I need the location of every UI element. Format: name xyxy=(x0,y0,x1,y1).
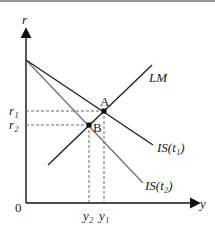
point-a-label: A xyxy=(100,94,110,109)
lm-curve xyxy=(48,65,152,165)
y2-tick-label: y₂ xyxy=(81,208,94,223)
y-axis-label: r xyxy=(22,12,28,27)
point-b xyxy=(87,123,92,128)
is-t1-label: IS(t₁) xyxy=(156,140,185,155)
lm-label: LM xyxy=(148,70,168,85)
is-t1-curve xyxy=(26,60,153,145)
origin-label: 0 xyxy=(15,200,22,215)
point-b-label: B xyxy=(93,120,102,135)
x-axis-label: y xyxy=(198,196,206,211)
r1-tick-label: r₁ xyxy=(9,103,19,118)
r2-tick-label: r₂ xyxy=(9,117,19,132)
y1-tick-label: y₁ xyxy=(97,208,109,223)
point-a xyxy=(102,109,107,114)
is-t2-label: IS(t₂) xyxy=(144,178,173,193)
is-t2-curve xyxy=(26,60,143,183)
is-lm-diagram: r y 0 LM IS(t₁) IS(t₂) A B r₁ r₂ y₂ y₁ xyxy=(0,0,215,230)
